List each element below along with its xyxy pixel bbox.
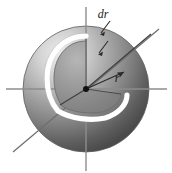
label-dr: dr: [98, 7, 109, 21]
label-r: r: [115, 71, 120, 85]
origin-point: [83, 86, 89, 92]
diagram-canvas: dr r: [0, 0, 172, 173]
spherical-shell-diagram: dr r: [0, 0, 172, 173]
